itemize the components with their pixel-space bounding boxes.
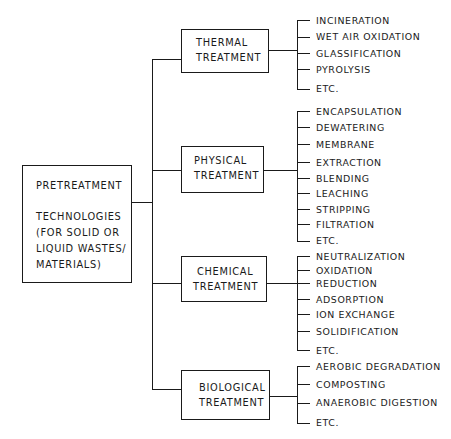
physical-branch	[152, 170, 182, 171]
tick	[297, 193, 310, 194]
thermal-branch	[152, 59, 181, 60]
chemical-item-ion-exchange: ION EXCHANGE	[316, 309, 395, 320]
chemical-label-1: CHEMICAL	[197, 265, 253, 279]
chemical-item-reduction: REDUCTION	[316, 278, 377, 289]
tick	[297, 256, 310, 257]
tick	[297, 331, 310, 332]
physical-item-dewatering: DEWATERING	[316, 122, 385, 133]
chemical-treatment-box: CHEMICAL TREATMENT	[181, 256, 267, 302]
biological-treatment-box: BIOLOGICAL TREATMENT	[181, 370, 270, 420]
tick	[297, 209, 310, 210]
physical-treatment-box: PHYSICAL TREATMENT	[181, 146, 264, 193]
physical-bracket	[297, 111, 298, 242]
root-line-1: TECHNOLOGIES	[36, 210, 122, 224]
thermal-label-2: TREATMENT	[196, 51, 261, 65]
chemical-item-oxidation: OXIDATION	[316, 265, 373, 276]
thermal-out	[268, 50, 298, 51]
biological-branch	[152, 389, 182, 390]
biological-label-1: BIOLOGICAL	[199, 381, 266, 395]
biological-item-aerobic-degradation: AEROBIC DEGRADATION	[316, 361, 441, 372]
thermal-bracket	[297, 20, 298, 90]
root-line-2: (FOR SOLID OR	[36, 226, 120, 240]
chemical-item-etc: ETC.	[316, 345, 339, 356]
thermal-treatment-box: THERMAL TREATMENT	[181, 29, 269, 73]
tick	[297, 144, 310, 145]
tick	[297, 403, 310, 404]
tick	[297, 384, 310, 385]
chemical-branch	[152, 283, 182, 284]
biological-out	[269, 396, 298, 397]
chemical-label-2: TREATMENT	[193, 280, 258, 294]
physical-label-1: PHYSICAL	[194, 154, 247, 168]
physical-item-extraction: EXTRACTION	[316, 157, 382, 168]
tick	[297, 162, 310, 163]
biological-item-anaerobic-digestion: ANAEROBIC DIGESTION	[316, 397, 438, 408]
chemical-item-solidification: SOLIDIFICATION	[316, 326, 399, 337]
tick	[297, 423, 310, 424]
trunk-line	[152, 59, 153, 390]
thermal-item-incineration: INCINERATION	[316, 15, 390, 26]
tick	[297, 224, 310, 225]
thermal-item-wet-air-oxidation: WET AIR OXIDATION	[316, 31, 420, 42]
tick	[297, 270, 310, 271]
biological-item-etc: ETC.	[316, 417, 339, 428]
root-title: PRETREATMENT	[36, 179, 122, 193]
thermal-label-1: THERMAL	[196, 36, 248, 50]
chemical-item-neutralization: NEUTRALIZATION	[316, 251, 405, 262]
tick	[297, 69, 310, 70]
tick	[297, 314, 310, 315]
chemical-out	[266, 283, 298, 284]
physical-item-leaching: LEACHING	[316, 188, 369, 199]
physical-item-encapsulation: ENCAPSULATION	[316, 106, 402, 117]
tick	[297, 20, 310, 21]
physical-item-blending: BLENDING	[316, 173, 370, 184]
physical-item-stripping: STRIPPING	[316, 204, 371, 215]
physical-item-etc: ETC.	[316, 235, 339, 246]
tick	[297, 37, 310, 38]
physical-item-membrane: MEMBRANE	[316, 139, 375, 150]
biological-label-2: TREATMENT	[199, 396, 264, 410]
tick	[297, 127, 310, 128]
root-line-4: MATERIALS)	[36, 258, 101, 272]
tick	[297, 53, 310, 54]
physical-item-filtration: FILTRATION	[316, 219, 375, 230]
tick	[297, 89, 310, 90]
root-connector	[131, 202, 153, 203]
biological-bracket	[297, 366, 298, 424]
tick	[297, 111, 310, 112]
tick	[297, 283, 310, 284]
biological-item-composting: COMPOSTING	[316, 379, 386, 390]
tick	[297, 241, 310, 242]
physical-label-2: TREATMENT	[194, 169, 259, 183]
tick	[297, 299, 310, 300]
thermal-item-pyrolysis: PYROLYSIS	[316, 64, 371, 75]
chemical-item-adsorption: ADSORPTION	[316, 294, 384, 305]
thermal-item-etc: ETC.	[316, 83, 339, 94]
thermal-item-glassification: GLASSIFICATION	[316, 48, 401, 59]
tick	[297, 366, 310, 367]
tick	[297, 350, 310, 351]
root-line-3: LIQUID WASTES/	[36, 242, 126, 256]
tick	[297, 178, 310, 179]
root-box-pretreatment-technologies: PRETREATMENT TECHNOLOGIES (FOR SOLID OR …	[22, 165, 132, 283]
physical-out	[263, 170, 298, 171]
